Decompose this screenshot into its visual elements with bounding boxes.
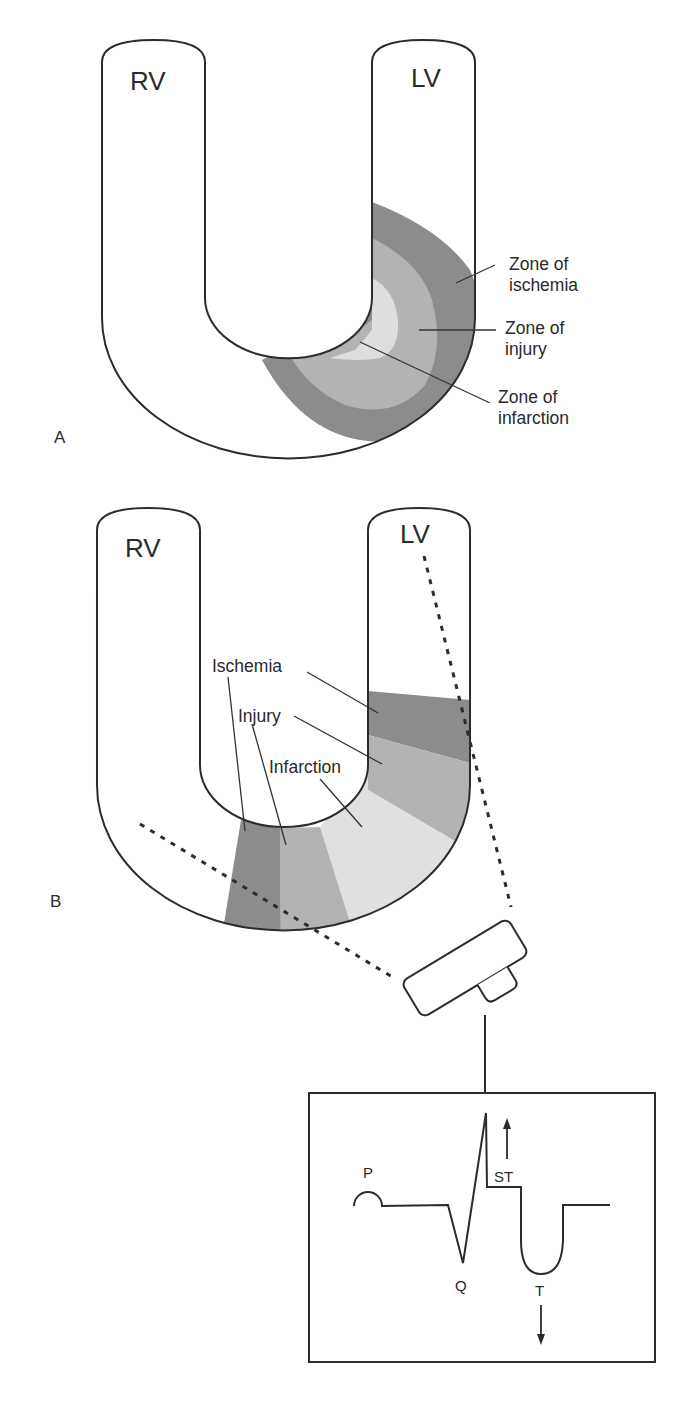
lv-label-a: LV [411, 63, 442, 93]
ecg-st-label: ST [494, 1168, 513, 1185]
leader-ischemia-bottom [228, 677, 245, 831]
zone-ischemia-label-1: Zone of [509, 254, 568, 274]
zone-injury-label-1: Zone of [505, 318, 564, 338]
electrode [401, 918, 540, 1093]
label-ischemia-b: Ischemia [212, 656, 282, 676]
ecg-monitor: P Q ST T [309, 1093, 655, 1362]
zone-injury-label-2: injury [505, 339, 547, 359]
panel-letter-b: B [50, 892, 61, 911]
zone-infarction-label-1: Zone of [498, 387, 557, 407]
zone-infarction-label-2: infarction [498, 408, 569, 428]
panel-b: RV LV Ischemia Injury Infarction B [50, 508, 540, 1093]
lv-label-b: LV [400, 519, 431, 549]
electrode-pad [401, 918, 529, 1018]
ecg-p-label: P [363, 1164, 373, 1181]
zones-a [262, 202, 485, 442]
label-infarction-b: Infarction [269, 757, 341, 777]
rv-label-b: RV [125, 533, 161, 563]
bands-b [218, 691, 470, 960]
panel-letter-a: A [54, 428, 66, 447]
band-ischemia-bottom [218, 820, 281, 960]
label-injury-b: Injury [238, 706, 281, 726]
rv-label-a: RV [130, 66, 166, 96]
ecg-t-label: T [535, 1282, 544, 1299]
zone-ischemia-label-2: ischemia [509, 275, 578, 295]
panel-a: RV LV Zone of ischemia Zone of injury Zo… [54, 40, 578, 458]
ecg-infarction-diagram: RV LV Zone of ischemia Zone of injury Zo… [0, 0, 686, 1408]
ecg-q-label: Q [455, 1277, 467, 1294]
